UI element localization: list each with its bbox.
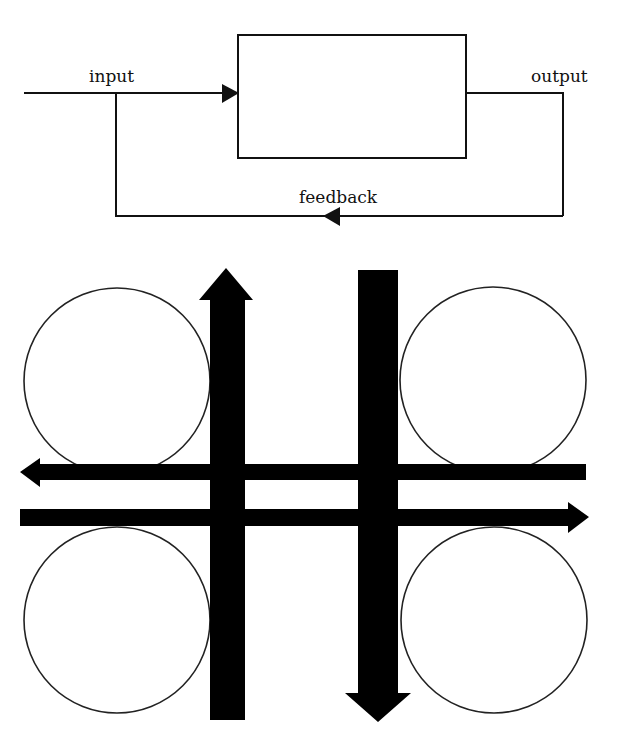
output-line (466, 93, 563, 216)
traffic-diagram (20, 268, 589, 722)
output-label: output (531, 66, 588, 86)
circle-bottom-right (401, 527, 587, 713)
circle-bottom-left (24, 527, 210, 713)
up-arrow-icon (199, 268, 253, 720)
diagram-canvas: input output feedback (0, 0, 620, 735)
input-label: input (89, 66, 134, 86)
feedback-arrowhead-icon (323, 207, 340, 226)
down-arrow-icon (345, 270, 411, 722)
feedback-loop-diagram: input output feedback (24, 35, 588, 226)
feedback-label: feedback (299, 187, 378, 207)
system-box (238, 35, 466, 158)
circle-top-left (24, 288, 210, 474)
left-arrow-icon (20, 458, 586, 487)
input-arrowhead-icon (222, 84, 239, 103)
circle-top-right (400, 287, 586, 473)
